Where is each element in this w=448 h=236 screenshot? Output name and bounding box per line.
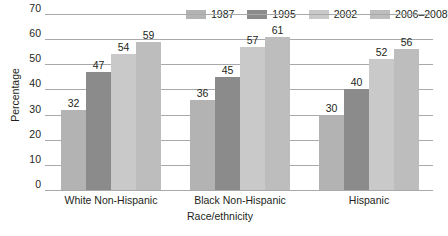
y-tick-label: 20: [29, 128, 41, 140]
bar-group: 36455761: [190, 14, 290, 190]
y-axis-title-text: Percentage: [9, 68, 21, 122]
bar[interactable]: [369, 59, 394, 190]
bars-layer: 324754593645576130405256: [45, 14, 433, 190]
bar[interactable]: [86, 72, 111, 190]
bar[interactable]: [61, 110, 86, 190]
bar[interactable]: [240, 47, 265, 190]
y-tick-label: 70: [29, 2, 41, 14]
bar[interactable]: [319, 115, 344, 190]
y-tick-label: 10: [29, 153, 41, 165]
y-axis-title: Percentage: [6, 0, 24, 190]
x-category-label: White Non-Hispanic: [41, 194, 181, 206]
y-tick-label: 40: [29, 77, 41, 89]
bar[interactable]: [190, 100, 215, 191]
plot-area: 010203040506070 324754593645576130405256: [45, 14, 433, 190]
bar[interactable]: [265, 37, 290, 190]
bar[interactable]: [136, 42, 161, 190]
x-category-label: Black Non-Hispanic: [170, 194, 310, 206]
y-tick-label: 0: [35, 178, 41, 190]
bar-group: 30405256: [319, 14, 419, 190]
bar-group: 32475459: [61, 14, 161, 190]
bar[interactable]: [344, 89, 369, 190]
bar[interactable]: [215, 77, 240, 190]
gridline-0: 0: [45, 190, 433, 191]
bar[interactable]: [394, 49, 419, 190]
x-category-label: Hispanic: [299, 194, 439, 206]
y-tick-label: 30: [29, 103, 41, 115]
bar-value-label: 59: [129, 29, 169, 41]
bar-value-label: 56: [387, 36, 427, 48]
y-tick-label: 50: [29, 52, 41, 64]
x-axis-title: Race/ethnicity: [0, 210, 440, 222]
y-tick-label: 60: [29, 27, 41, 39]
bar-value-label: 61: [258, 24, 298, 36]
bar[interactable]: [111, 54, 136, 190]
